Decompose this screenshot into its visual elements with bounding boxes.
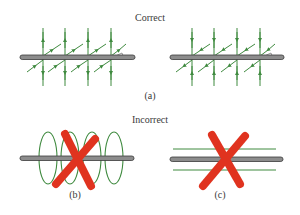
panel-c — [170, 135, 283, 186]
wire — [170, 55, 284, 60]
diagram-canvas — [0, 0, 300, 215]
panel-a-right — [170, 28, 284, 86]
panel-b — [20, 132, 134, 186]
panel-a-left — [20, 28, 135, 86]
wire — [20, 55, 135, 60]
